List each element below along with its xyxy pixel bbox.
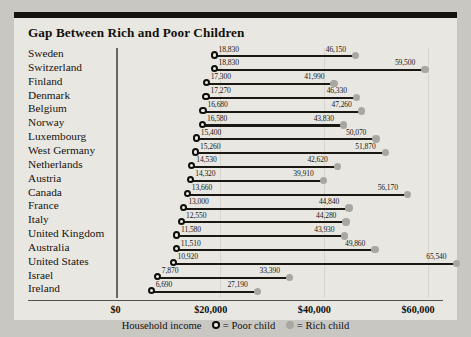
poor-child-dot [211,51,218,58]
income-gap-bar [214,55,356,57]
poor-value-label: 15,400 [201,128,221,137]
income-gap-bar [196,152,386,154]
rich-child-dot [358,107,365,114]
income-gap-bar [176,249,375,251]
chart-row: Ireland6,69027,190 [14,281,457,296]
poor-value-label: 7,870 [162,266,179,275]
country-label: Denmark [28,89,70,102]
poor-value-label: 16,580 [207,114,227,123]
rich-child-dot [421,66,428,73]
poor-child-dot [193,134,200,141]
top-rule [14,12,457,18]
poor-value-label: 18,830 [219,45,239,54]
poor-child-dot [203,79,210,86]
country-label: Ireland [28,282,60,295]
x-tick-label: $60,000 [402,304,435,315]
x-tick-label: $0 [111,304,121,315]
chart-panel: Gap Between Rich and Poor Children Swede… [14,12,457,320]
legend-rich-label: = Rich child [297,320,349,331]
rich-child-dot [353,94,360,101]
income-gap-bar [157,277,289,279]
plot-area: Sweden18,83046,150Switzerland18,83059,50… [14,46,457,298]
country-label: Finland [28,75,63,88]
rich-value-label: 51,870 [355,142,375,151]
income-gap-bar [196,138,376,140]
country-label: Sweden [28,47,64,60]
rich-value-label: 46,150 [326,45,346,54]
poor-value-label: 11,580 [181,225,201,234]
rich-value-label: 47,260 [331,100,351,109]
poor-value-label: 16,680 [207,100,227,109]
rich-child-dot [286,274,293,281]
country-label: Australia [28,241,69,254]
poor-value-label: 10,920 [178,252,198,261]
rich-value-label: 59,500 [395,58,415,67]
country-label: Belgium [28,102,67,115]
rich-child-dot [342,218,349,225]
income-gap-bar [184,208,349,210]
income-gap-bar [177,235,345,237]
income-gap-bar [173,263,456,265]
poor-value-label: 13,000 [188,197,208,206]
income-gap-bar [214,69,425,71]
rich-value-label: 43,830 [314,114,334,123]
income-gap-bar [203,111,362,113]
rich-child-dot [352,52,359,59]
income-gap-bar [182,221,346,223]
rich-value-label: 56,170 [378,183,398,192]
legend-poor-label: = Poor child [223,320,275,331]
country-label: Luxembourg [28,130,86,143]
poor-value-label: 11,510 [181,239,201,248]
poor-value-label: 14,530 [196,155,216,164]
poor-value-label: 13,660 [192,183,212,192]
country-label: West Germany [28,144,95,157]
rich-value-label: 44,280 [316,211,336,220]
rich-value-label: 44,840 [319,197,339,206]
poor-child-dot [148,287,155,294]
poor-child-marker-icon [212,321,219,328]
income-gap-bar [192,166,338,168]
chart-legend: Household income= Poor child= Rich child [14,319,457,331]
income-gap-bar [202,124,343,126]
country-label: Austria [28,172,61,185]
x-tick-label: $20,000 [194,304,227,315]
poor-value-label: 6,690 [156,280,173,289]
poor-value-label: 17,270 [211,86,231,95]
rich-value-label: 50,070 [346,128,366,137]
legend-axis-label: Household income [122,320,202,331]
x-axis-line [28,300,443,301]
poor-value-label: 18,830 [219,58,239,67]
rich-child-dot [320,177,327,184]
rich-value-label: 65,540 [426,252,446,261]
income-gap-bar [151,291,257,293]
country-label: United Kingdom [28,227,104,240]
rich-value-label: 43,930 [314,225,334,234]
rich-child-dot [382,149,389,156]
rich-child-marker-icon [286,321,294,329]
country-label: Israel [28,269,53,282]
country-label: United States [28,255,89,268]
rich-value-label: 49,860 [345,239,365,248]
poor-value-label: 14,320 [195,169,215,178]
income-gap-bar [206,97,357,99]
rich-child-dot [334,163,341,170]
poor-child-dot [173,231,180,238]
country-label: Netherlands [28,158,83,171]
rich-child-dot [453,260,460,267]
country-label: Norway [28,116,64,129]
income-gap-bar [187,194,407,196]
rich-child-dot [404,191,411,198]
rich-child-dot [345,204,352,211]
country-label: Switzerland [28,61,82,74]
country-label: Italy [28,213,49,226]
chart-title: Gap Between Rich and Poor Children [28,25,245,41]
x-tick-label: $40,000 [298,304,331,315]
rich-value-label: 46,330 [327,86,347,95]
rich-value-label: 41,990 [304,72,324,81]
poor-value-label: 17,300 [211,72,231,81]
poor-value-label: 12,550 [186,211,206,220]
rich-value-label: 39,910 [293,169,313,178]
income-gap-bar [206,83,334,85]
poor-child-dot [199,107,206,114]
country-label: Canada [28,186,62,199]
